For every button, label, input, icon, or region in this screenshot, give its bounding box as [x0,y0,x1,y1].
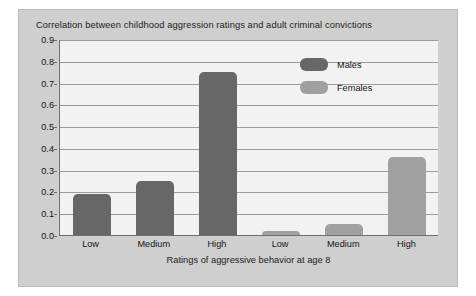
y-tick-label: 0.4 [41,144,54,154]
y-tick-label: 0.6 [41,100,54,110]
bar-males-medium [136,181,174,235]
y-tick-label: 0.3 [41,166,54,176]
x-tick-label: High [397,239,416,249]
x-tick-label: Low [272,239,289,249]
y-tick-mark [54,127,57,128]
y-tick-mark [54,40,57,41]
y-axis: 0.90.80.70.60.50.40.30.20.10.0 [19,40,57,236]
gridline [60,171,438,172]
chart-title: Correlation between childhood aggression… [36,20,372,30]
legend-label: Females [337,83,372,93]
y-tick-mark [54,149,57,150]
gridline [60,105,438,106]
y-tick-label: 0.8 [41,57,54,67]
gridline [60,214,438,215]
y-tick-mark [54,192,57,193]
gridline [60,40,438,41]
x-tick-label: High [207,239,226,249]
x-axis-title: Ratings of aggressive behavior at age 8 [59,255,438,265]
bar-females-medium [325,224,363,235]
y-tick-label: 0.0 [41,231,54,241]
bar-males-high [199,72,237,235]
bar-females-high [388,157,426,235]
y-tick-mark [54,236,57,237]
x-tick-label: Low [82,239,99,249]
y-tick-label: 0.7 [41,79,54,89]
y-tick-label: 0.2 [41,187,54,197]
gridline [60,192,438,193]
y-tick-mark [54,105,57,106]
x-tick-label: Medium [137,239,170,249]
y-tick-label: 0.9 [41,35,54,45]
legend-swatch-females [300,81,328,94]
gridline [60,127,438,128]
chart-legend: MalesFemales [300,55,410,101]
y-tick-mark [54,171,57,172]
legend-item-males: Males [300,55,410,74]
legend-label: Males [337,60,362,70]
y-tick-mark [54,84,57,85]
y-tick-mark [54,62,57,63]
legend-item-females: Females [300,78,410,97]
y-tick-mark [54,214,57,215]
legend-swatch-males [300,58,328,71]
bar-males-low [73,194,111,235]
bar-females-low [262,231,300,235]
x-tick-label: Medium [327,239,360,249]
x-axis: LowMediumHighLowMediumHigh [59,237,438,255]
chart-figure: Correlation between childhood aggression… [18,9,458,287]
y-tick-label: 0.1 [41,209,54,219]
y-tick-label: 0.5 [41,122,54,132]
gridline [60,149,438,150]
